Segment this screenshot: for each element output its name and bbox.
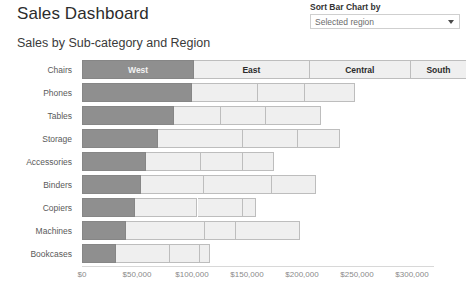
bar-segment-central[interactable] bbox=[201, 152, 243, 171]
axis-tick-label: $50,000 bbox=[123, 270, 152, 279]
axis-tick-label: $200,000 bbox=[285, 270, 318, 279]
chart-row[interactable]: Bookcases bbox=[0, 242, 466, 265]
axis-tick-label: $250,000 bbox=[340, 270, 373, 279]
bar-segment-south[interactable] bbox=[305, 83, 355, 102]
bar-segment-east[interactable] bbox=[116, 244, 170, 263]
sort-control-label: Sort Bar Chart by bbox=[310, 2, 460, 12]
chart-row[interactable]: Copiers bbox=[0, 196, 466, 219]
bar-segment-west[interactable] bbox=[82, 244, 116, 263]
bar-segment-central[interactable] bbox=[198, 198, 243, 217]
bar-segment-south[interactable] bbox=[298, 129, 341, 148]
bar-segment-south[interactable] bbox=[266, 106, 321, 125]
row-label-bookcases[interactable]: Bookcases bbox=[0, 242, 76, 265]
bar-segment-south[interactable] bbox=[200, 244, 210, 263]
bar-segment-central[interactable] bbox=[204, 175, 272, 194]
chart-row[interactable]: Accessories bbox=[0, 150, 466, 173]
x-axis: $0$50,000$100,000$150,000$200,000$250,00… bbox=[0, 266, 466, 286]
bar-segment-central[interactable] bbox=[243, 129, 298, 148]
bar-segment-east[interactable] bbox=[135, 198, 198, 217]
bar-track bbox=[82, 129, 466, 148]
chart-row[interactable]: Storage bbox=[0, 127, 466, 150]
chart-row[interactable]: Machines bbox=[0, 219, 466, 242]
row-label-binders[interactable]: Binders bbox=[0, 173, 76, 196]
bar-segment-south[interactable] bbox=[236, 221, 300, 240]
axis-tick-label: $300,000 bbox=[395, 270, 428, 279]
bar-segment-south[interactable]: South bbox=[411, 60, 466, 79]
stacked-bar-chart: ChairsWestEastCentralSouthPhonesTablesSt… bbox=[0, 58, 466, 300]
bar-segment-east[interactable] bbox=[192, 83, 258, 102]
bar-segment-west[interactable] bbox=[82, 198, 135, 217]
bar-segment-west[interactable] bbox=[82, 152, 146, 171]
bar-segment-south[interactable] bbox=[243, 198, 256, 217]
axis-tick-label: $0 bbox=[78, 270, 87, 279]
chart-row[interactable]: Binders bbox=[0, 173, 466, 196]
page-title: Sales Dashboard bbox=[17, 4, 149, 24]
row-label-chairs[interactable]: Chairs bbox=[0, 58, 76, 81]
bar-track bbox=[82, 106, 466, 125]
bar-segment-west[interactable] bbox=[82, 106, 174, 125]
row-label-phones[interactable]: Phones bbox=[0, 81, 76, 104]
chart-row[interactable]: Phones bbox=[0, 81, 466, 104]
region-legend-label: South bbox=[411, 61, 466, 78]
bar-segment-south[interactable] bbox=[243, 152, 275, 171]
bar-segment-west[interactable] bbox=[82, 129, 158, 148]
bar-segment-central[interactable] bbox=[170, 244, 200, 263]
bar-track bbox=[82, 152, 466, 171]
bar-segment-central[interactable]: Central bbox=[310, 60, 411, 79]
bar-segment-east[interactable] bbox=[146, 152, 201, 171]
chart-row[interactable]: ChairsWestEastCentralSouth bbox=[0, 58, 466, 81]
row-label-machines[interactable]: Machines bbox=[0, 219, 76, 242]
bar-segment-west[interactable]: West bbox=[82, 60, 194, 79]
row-label-accessories[interactable]: Accessories bbox=[0, 150, 76, 173]
bar-track bbox=[82, 244, 466, 263]
chart-row[interactable]: Tables bbox=[0, 104, 466, 127]
bar-track bbox=[82, 198, 466, 217]
bar-track bbox=[82, 175, 466, 194]
bar-track bbox=[82, 83, 466, 102]
sort-dropdown-value: Selected region bbox=[311, 17, 374, 27]
bar-track: WestEastCentralSouth bbox=[82, 60, 466, 79]
bar-segment-west[interactable] bbox=[82, 175, 141, 194]
bar-segment-central[interactable] bbox=[258, 83, 305, 102]
axis-line bbox=[82, 266, 434, 267]
row-label-tables[interactable]: Tables bbox=[0, 104, 76, 127]
bar-segment-west[interactable] bbox=[82, 83, 192, 102]
bar-segment-east[interactable] bbox=[158, 129, 243, 148]
worksheet-title: Sales by Sub-category and Region bbox=[17, 36, 210, 50]
axis-tick-label: $100,000 bbox=[175, 270, 208, 279]
region-legend-label: West bbox=[83, 61, 193, 78]
region-legend-label: Central bbox=[310, 61, 410, 78]
row-label-copiers[interactable]: Copiers bbox=[0, 196, 76, 219]
chevron-down-icon bbox=[448, 20, 454, 24]
sort-dropdown[interactable]: Selected region bbox=[310, 14, 460, 29]
region-legend-label: East bbox=[194, 61, 309, 78]
bar-segment-east[interactable] bbox=[141, 175, 204, 194]
bar-track bbox=[82, 221, 466, 240]
bar-segment-south[interactable] bbox=[272, 175, 316, 194]
bar-segment-central[interactable] bbox=[205, 221, 236, 240]
bar-segment-central[interactable] bbox=[221, 106, 266, 125]
row-label-storage[interactable]: Storage bbox=[0, 127, 76, 150]
bar-segment-west[interactable] bbox=[82, 221, 126, 240]
bar-segment-east[interactable] bbox=[126, 221, 205, 240]
bar-segment-east[interactable]: East bbox=[194, 60, 310, 79]
sort-control: Sort Bar Chart by Selected region bbox=[310, 2, 460, 29]
dashboard-root: Sales Dashboard Sales by Sub-category an… bbox=[0, 0, 466, 300]
bar-segment-east[interactable] bbox=[174, 106, 220, 125]
axis-tick-label: $150,000 bbox=[230, 270, 263, 279]
